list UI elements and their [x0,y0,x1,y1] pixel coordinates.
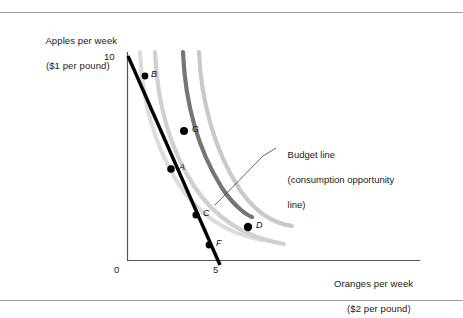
y-axis-title-line1: Apples per week [45,35,117,46]
x-axis-title-line1: Oranges per week [334,278,413,289]
point-marker-c [192,211,199,218]
point-marker-b [142,73,149,80]
point-marker-g [180,127,188,135]
point-label-c: C [203,208,210,218]
point-label-d: D [256,220,263,230]
point-label-g: G [192,124,199,134]
point-label-b: B [151,69,157,79]
callout-line2: (consumption opportunity [288,174,395,185]
y-axis-title-line2: ($1 per pound) [46,60,110,71]
x-axis-tick-0: 0 [114,264,119,275]
x-axis-title: Oranges per week ($2 per pound) [323,265,413,318]
point-marker-f [206,242,213,249]
callout-line3: line) [288,199,306,210]
x-axis-title-line2: ($2 per pound) [323,303,413,316]
point-marker-d [244,223,252,231]
x-axis-tick-5: 5 [213,264,218,275]
point-label-f: F [216,238,222,248]
indifference-curves [140,52,292,244]
callout-line1: Budget line [288,149,336,160]
point-label-a: A [179,162,185,172]
point-marker-a [167,165,175,173]
y-axis-tick-10: 10 [104,51,115,62]
budget-line-callout: Budget line (consumption opportunity lin… [277,136,394,224]
